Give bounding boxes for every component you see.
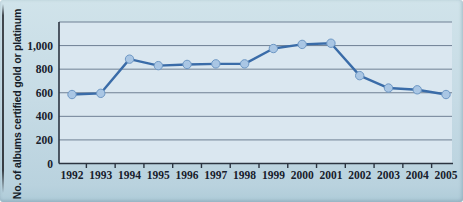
chart-card: No. of albums certified gold or platinum…: [0, 0, 463, 202]
x-tick-label: 1992: [61, 169, 84, 181]
y-tick-label: 1,000: [27, 40, 53, 52]
data-point: [269, 44, 277, 52]
data-point: [212, 60, 220, 68]
data-point: [183, 60, 191, 68]
x-tick-label: 2005: [435, 169, 458, 181]
data-point: [442, 90, 450, 98]
scan-edge-line: [2, 4, 4, 193]
y-tick-label: 600: [36, 87, 54, 99]
data-point: [154, 61, 162, 69]
x-tick-label: 2002: [348, 169, 371, 181]
data-point: [97, 89, 105, 97]
x-tick-label: 2004: [406, 169, 429, 181]
y-tick-label: 800: [36, 63, 54, 75]
x-tick-label: 2001: [319, 169, 342, 181]
x-tick-label: 1999: [262, 169, 285, 181]
x-tick-label: 1993: [89, 169, 112, 181]
data-point: [327, 39, 335, 47]
x-tick-label: 2003: [377, 169, 400, 181]
line-chart: 02004006008001,0001992199319941995199619…: [0, 0, 463, 202]
x-tick-label: 1998: [233, 169, 256, 181]
data-point: [355, 71, 363, 79]
data-point: [413, 86, 421, 94]
x-tick-label: 1996: [176, 169, 199, 181]
x-tick-label: 2000: [291, 169, 314, 181]
y-tick-label: 0: [47, 158, 53, 170]
y-axis-title: No. of albums certified gold or platinum: [11, 9, 23, 199]
data-point: [298, 40, 306, 48]
data-point: [240, 60, 248, 68]
x-tick-label: 1994: [118, 169, 141, 181]
data-point: [384, 84, 392, 92]
y-tick-label: 400: [36, 110, 54, 122]
data-point: [125, 55, 133, 63]
y-tick-label: 200: [36, 134, 54, 146]
data-point: [68, 90, 76, 98]
x-tick-label: 1997: [204, 169, 227, 181]
x-tick-label: 1995: [147, 169, 170, 181]
